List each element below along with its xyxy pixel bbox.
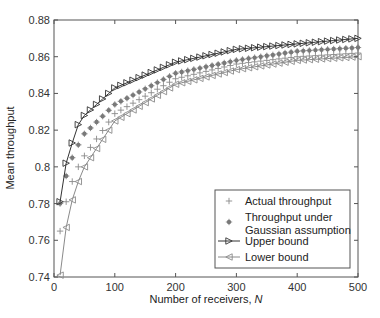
legend-label: Actual throughput (245, 195, 331, 207)
legend-label: Lower bound (245, 251, 309, 263)
legend: Actual throughputThroughput underGaussia… (215, 190, 351, 268)
x-tick-label: 300 (227, 281, 245, 293)
legend-item: Throughput underGaussian assumption (226, 211, 351, 236)
y-tick-label: 0.86 (29, 51, 50, 63)
x-tick-label: 0 (51, 281, 57, 293)
y-axis-label: Mean throughput (4, 106, 16, 189)
y-tick-label: 0.78 (29, 198, 50, 210)
legend-label: Upper bound (245, 235, 309, 247)
x-tick-label: 400 (288, 281, 306, 293)
y-tick-label: 0.76 (29, 234, 50, 246)
chart: Mean throughput 0.740.760.780.80.820.840… (0, 0, 380, 318)
y-tick-label: 0.74 (29, 271, 50, 283)
x-axis-label: Number of receivers, N (149, 293, 262, 305)
y-tick-label: 0.84 (29, 87, 50, 99)
y-tick-label: 0.8 (35, 161, 50, 173)
legend-label: Throughput under (245, 211, 333, 223)
series-throughput-under-gaussian-assumption (57, 44, 361, 206)
y-tick-label: 0.88 (29, 14, 50, 26)
y-tick-label: 0.82 (29, 124, 50, 136)
x-tick-label: 200 (166, 281, 184, 293)
x-tick-label: 500 (349, 281, 367, 293)
svg-text:Mean throughput: Mean throughput (4, 106, 16, 189)
x-tick-label: 100 (106, 281, 124, 293)
